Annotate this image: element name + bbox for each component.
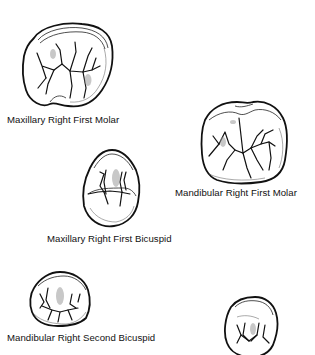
mandibular-right-first-molar-drawing [199,98,289,184]
maxillary-right-first-molar-drawing [20,18,115,110]
mandibular-right-second-bicuspid-drawing [28,270,92,327]
bicuspid-occlusal-icon [80,148,142,228]
label-maxillary-right-first-bicuspid: Maxillary Right First Bicuspid [47,233,172,244]
label-mandibular-right-first-molar: Mandibular Right First Molar [175,187,297,198]
unlabeled-tooth-drawing [221,295,279,355]
bicuspid-occlusal-icon [221,295,279,355]
label-maxillary-right-first-molar: Maxillary Right First Molar [7,114,119,125]
maxillary-right-first-bicuspid-drawing [80,148,142,228]
label-mandibular-right-second-bicuspid: Mandibular Right Second Bicuspid [7,332,155,343]
bicuspid-occlusal-icon [28,270,92,327]
molar-occlusal-icon [199,98,289,184]
molar-occlusal-icon [20,18,115,110]
